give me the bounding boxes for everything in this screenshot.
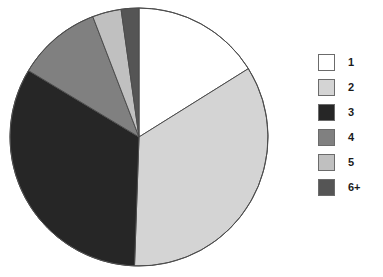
legend-swatch-2 [318,79,335,96]
legend-label-6plus: 6+ [348,182,361,193]
legend-swatch-3 [318,104,335,121]
legend-swatch-1 [318,54,335,71]
legend-swatch-5 [318,154,335,171]
legend-item: 1 [318,50,380,75]
pie-slice-group [10,8,268,266]
legend-label-3: 3 [348,107,354,118]
legend-label-5: 5 [348,157,354,168]
legend-item: 2 [318,75,380,100]
legend-item: 5 [318,150,380,175]
pie-chart-figure: 1 2 3 4 5 6+ [0,0,383,277]
legend-swatch-6plus [318,179,335,196]
legend-item: 4 [318,125,380,150]
legend-label-4: 4 [348,132,354,143]
legend-swatch-4 [318,129,335,146]
legend-item: 6+ [318,175,380,200]
legend-label-1: 1 [348,57,354,68]
legend-item: 3 [318,100,380,125]
legend-label-2: 2 [348,82,354,93]
chart-legend: 1 2 3 4 5 6+ [318,50,380,200]
